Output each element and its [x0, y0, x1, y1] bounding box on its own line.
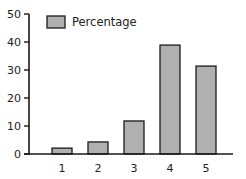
bar-2 — [88, 142, 108, 154]
y-tick-label: 50 — [7, 8, 21, 21]
y-tick-label: 10 — [7, 120, 21, 133]
y-axis: 01020304050 — [7, 8, 29, 161]
x-tick-label: 2 — [95, 162, 102, 175]
legend: Percentage — [47, 15, 137, 29]
x-tick-label: 5 — [203, 162, 210, 175]
y-tick-label: 40 — [7, 36, 21, 49]
x-axis: 12345 — [24, 154, 233, 175]
y-tick-label: 0 — [14, 148, 21, 161]
x-tick-label: 1 — [59, 162, 66, 175]
x-tick-label: 3 — [131, 162, 138, 175]
bars — [52, 45, 216, 154]
legend-swatch — [47, 16, 65, 28]
y-tick-label: 30 — [7, 64, 21, 77]
legend-label: Percentage — [72, 15, 137, 29]
bar-chart: 01020304050 12345 Percentage — [0, 0, 246, 179]
bar-5 — [196, 66, 216, 154]
bar-3 — [124, 121, 144, 154]
x-tick-label: 4 — [167, 162, 174, 175]
bar-4 — [160, 45, 180, 154]
y-tick-label: 20 — [7, 92, 21, 105]
bar-1 — [52, 148, 72, 154]
